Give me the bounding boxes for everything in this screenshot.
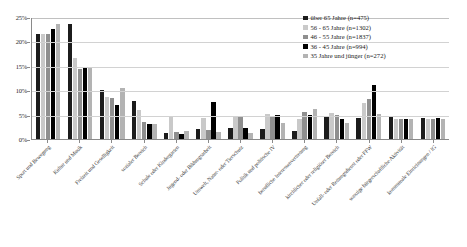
bar bbox=[275, 115, 279, 139]
bar bbox=[51, 29, 55, 139]
bar bbox=[100, 90, 104, 139]
bar bbox=[292, 131, 296, 139]
bar bbox=[409, 119, 413, 139]
x-label-cell: Sport und Bewegung bbox=[31, 142, 63, 247]
gridline bbox=[32, 42, 449, 43]
bar-group bbox=[417, 18, 449, 139]
bar bbox=[132, 101, 136, 139]
bar-group bbox=[160, 18, 192, 139]
bar bbox=[324, 117, 328, 139]
bar bbox=[174, 132, 178, 139]
y-tick-label: 5% bbox=[19, 112, 27, 119]
bar bbox=[216, 132, 220, 139]
bar bbox=[367, 99, 371, 139]
bar bbox=[211, 102, 215, 139]
bar bbox=[329, 113, 333, 139]
bar bbox=[308, 115, 312, 139]
bar bbox=[233, 116, 237, 139]
legend-label: 35 Jahre und jünger (n=272) bbox=[311, 52, 386, 60]
bar bbox=[110, 98, 114, 139]
legend-swatch-icon bbox=[303, 44, 308, 49]
bar bbox=[297, 119, 301, 139]
bar bbox=[340, 119, 344, 139]
bar bbox=[179, 134, 183, 139]
bar bbox=[142, 122, 146, 139]
gridline bbox=[32, 91, 449, 92]
bar bbox=[431, 119, 435, 139]
bar bbox=[120, 88, 124, 139]
legend-swatch-icon bbox=[303, 35, 308, 40]
bar-group bbox=[32, 18, 64, 139]
x-label-cell: Umwelt, Natur- oder Tierschutz bbox=[224, 142, 256, 247]
bar-group bbox=[257, 18, 289, 139]
plot-area bbox=[31, 18, 449, 140]
y-axis: 25%20%15%10%5%0% bbox=[0, 0, 31, 141]
bar bbox=[335, 115, 339, 139]
legend-swatch-icon bbox=[303, 16, 308, 21]
x-label-cell: kommunale Einrichtungen / IG bbox=[417, 142, 449, 247]
bar-group bbox=[224, 18, 256, 139]
bar bbox=[46, 34, 50, 139]
x-axis-labels: Sport und BewegungKultur und MusikFreize… bbox=[31, 142, 449, 247]
bar bbox=[169, 117, 173, 139]
bar bbox=[78, 69, 82, 139]
y-tick-label: 0% bbox=[19, 136, 27, 143]
bar bbox=[426, 119, 430, 139]
legend-label: 36 - 45 Jahre (n=994) bbox=[311, 43, 368, 51]
bar bbox=[243, 128, 247, 139]
bar-group bbox=[192, 18, 224, 139]
bar-group bbox=[96, 18, 128, 139]
bar-group bbox=[385, 18, 417, 139]
bar bbox=[441, 119, 445, 139]
bar bbox=[152, 124, 156, 139]
legend-item[interactable]: 56 - 65 Jahre (n=1302) bbox=[303, 24, 386, 32]
bar bbox=[137, 110, 141, 139]
y-tick-mark bbox=[27, 140, 30, 141]
legend-item[interactable]: 36 - 45 Jahre (n=994) bbox=[303, 43, 386, 51]
bar bbox=[404, 119, 408, 139]
bar bbox=[281, 123, 285, 139]
bar bbox=[228, 128, 232, 139]
gridline bbox=[32, 67, 449, 68]
bar bbox=[372, 85, 376, 139]
y-tick-label: 15% bbox=[16, 63, 27, 70]
bar bbox=[345, 123, 349, 139]
gridline bbox=[32, 18, 449, 19]
bar bbox=[73, 58, 77, 139]
bar bbox=[41, 34, 45, 139]
bar bbox=[270, 117, 274, 139]
legend-item[interactable]: über 65 Jahre (n=475) bbox=[303, 14, 386, 22]
bar-groups bbox=[32, 18, 449, 139]
bar bbox=[115, 105, 119, 139]
y-tick-label: 25% bbox=[16, 14, 27, 21]
bar-group bbox=[128, 18, 160, 139]
bar bbox=[164, 133, 168, 139]
bar bbox=[421, 118, 425, 139]
x-label-cell: Schule oder Kindergarten bbox=[160, 142, 192, 247]
x-label-cell: Kultur und Musik bbox=[63, 142, 95, 247]
legend-label: über 65 Jahre (n=475) bbox=[311, 14, 369, 22]
bar bbox=[313, 109, 317, 139]
bar bbox=[238, 117, 242, 139]
bar bbox=[394, 119, 398, 139]
legend-swatch-icon bbox=[303, 54, 308, 59]
y-tick-mark bbox=[27, 18, 30, 19]
bar bbox=[248, 133, 252, 139]
bar bbox=[436, 118, 440, 139]
legend-item[interactable]: 46 - 55 Jahre (n=1837) bbox=[303, 33, 386, 41]
bar bbox=[377, 114, 381, 139]
legend-item[interactable]: 35 Jahre und jünger (n=272) bbox=[303, 52, 386, 60]
y-tick-mark bbox=[27, 67, 30, 68]
bar bbox=[362, 103, 366, 139]
x-label-cell: Freizeit und Geselligkeit bbox=[95, 142, 127, 247]
legend-label: 46 - 55 Jahre (n=1837) bbox=[311, 33, 371, 41]
gridline bbox=[32, 116, 449, 117]
x-axis-label: Sport und Bewegung bbox=[15, 144, 52, 181]
bar bbox=[147, 124, 151, 139]
y-tick-label: 10% bbox=[16, 87, 27, 94]
legend-label: 56 - 65 Jahre (n=1302) bbox=[311, 24, 371, 32]
bar-chart: 25%20%15%10%5%0% Sport und BewegungKultu… bbox=[0, 0, 467, 247]
bar bbox=[196, 129, 200, 139]
x-label-cell: sozialer Bereich bbox=[127, 142, 159, 247]
bar bbox=[105, 97, 109, 139]
